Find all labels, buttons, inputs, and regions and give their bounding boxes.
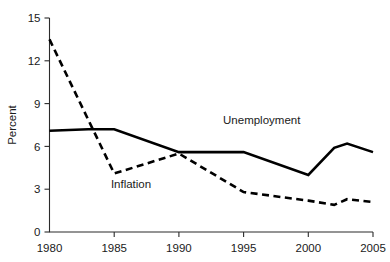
x-tick-label-1995: 1995	[231, 242, 257, 254]
y-tick-label-3: 3	[34, 183, 40, 195]
chart-container: 03691215 198019851990199520002005 Unempl…	[0, 0, 390, 262]
chart-axes	[50, 18, 374, 232]
y-tick-label-6: 6	[34, 141, 40, 153]
percent-line-chart: 03691215 198019851990199520002005 Unempl…	[0, 0, 390, 262]
chart-series-lines	[50, 39, 374, 204]
x-tick-label-1990: 1990	[166, 242, 192, 254]
series-line-unemployment	[50, 129, 374, 175]
axis-frame	[50, 18, 374, 232]
series-label-inflation: Inflation	[111, 178, 151, 190]
x-tick-label-1980: 1980	[37, 242, 63, 254]
y-axis-title-text: Percent	[6, 104, 18, 144]
x-tick-label-1985: 1985	[101, 242, 127, 254]
x-tick-label-2000: 2000	[296, 242, 322, 254]
series-label-unemployment: Unemployment	[223, 114, 301, 126]
series-line-inflation	[50, 39, 374, 204]
y-axis-tick-labels: 03691215	[28, 12, 41, 238]
y-axis-title: Percent	[6, 104, 18, 144]
x-tick-label-2005: 2005	[360, 242, 386, 254]
y-tick-label-9: 9	[34, 98, 40, 110]
x-axis-tick-labels: 198019851990199520002005	[37, 242, 386, 254]
y-tick-label-12: 12	[28, 55, 41, 67]
y-tick-label-0: 0	[34, 226, 40, 238]
y-tick-label-15: 15	[28, 12, 41, 24]
